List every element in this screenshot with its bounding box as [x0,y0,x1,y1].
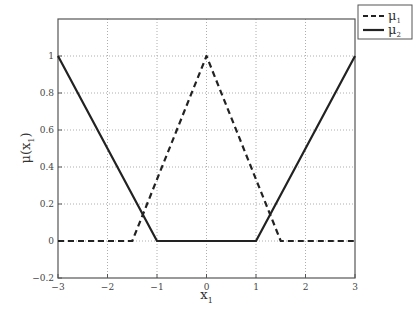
legend-box [358,5,412,39]
x-tick-label: −2 [101,282,114,292]
y-tick-label: 0.2 [40,199,54,209]
y-axis-label: μ(x1) [18,132,36,163]
y-tick-label: 1 [48,51,54,61]
y-tick-label: 0.4 [40,162,55,172]
legend-item-sub: 2 [396,31,400,39]
x-tick-label: 3 [352,282,358,292]
y-axis-label-main: μ(x [18,142,33,164]
chart: −3−2−10123−0.200.20.40.60.81x1μ(x1)μ1μ2 [0,0,416,317]
x-axis-label: x1 [200,287,212,305]
x-axis-label-sub: 1 [208,296,213,305]
y-axis-label-close: ) [18,132,33,137]
y-tick-label: 0.6 [40,125,55,135]
x-tick-label: −1 [150,282,163,292]
legend-item-sub: 1 [396,17,400,25]
y-tick-label: −0.2 [32,273,54,283]
y-tick-label: 0.8 [40,88,55,98]
x-tick-label: 2 [303,282,309,292]
x-tick-label: −3 [51,282,65,292]
legend: μ1μ2 [358,5,412,39]
x-tick-label: 1 [253,282,259,292]
y-tick-label: 0 [48,236,54,246]
